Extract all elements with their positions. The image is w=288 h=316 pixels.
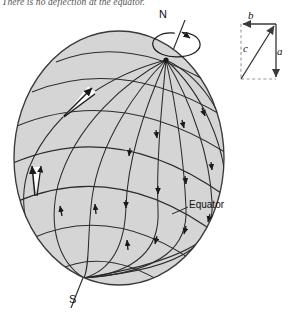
equator-label: Equator: [189, 199, 224, 210]
coriolis-globe-figure: There is no deflection at the equator.: [0, 0, 288, 316]
north-pole-point: [163, 57, 168, 62]
vector-b-label: b: [248, 9, 254, 21]
vector-c-label: c: [243, 42, 248, 54]
vector-a-label: a: [277, 45, 283, 57]
south-pole-label: S: [69, 293, 76, 305]
north-pole-label: N: [159, 8, 167, 20]
